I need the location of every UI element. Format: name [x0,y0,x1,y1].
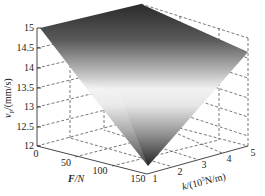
svg-text:0: 0 [34,148,39,159]
svg-text:12.5: 12.5 [17,121,35,132]
svg-text:2: 2 [178,166,183,177]
x-axis-label: F/N [67,173,85,184]
y-axis-label: k/(105N/m) [181,170,227,192]
surface [40,4,248,166]
svg-text:1: 1 [153,173,158,184]
svg-text:3: 3 [202,159,207,170]
svg-text:150: 150 [131,173,146,184]
f-tick-labels: 0 50 100 150 [34,148,146,184]
svg-text:14.5: 14.5 [17,42,35,53]
svg-text:4: 4 [227,153,232,164]
z-axis-label: vp/(mm/s) [2,78,15,118]
svg-text:100: 100 [93,165,108,176]
svg-text:12: 12 [24,140,34,151]
svg-text:14: 14 [24,62,34,73]
svg-text:13.5: 13.5 [17,82,35,93]
surface-plot: 15 14.5 14 13.5 13 12.5 12 0 50 100 150 … [0,0,265,196]
svg-text:15: 15 [24,22,34,33]
svg-text:50: 50 [61,157,71,168]
z-tick-labels: 15 14.5 14 13.5 13 12.5 12 [17,22,35,151]
svg-text:13: 13 [24,101,34,112]
svg-text:5: 5 [251,147,256,158]
